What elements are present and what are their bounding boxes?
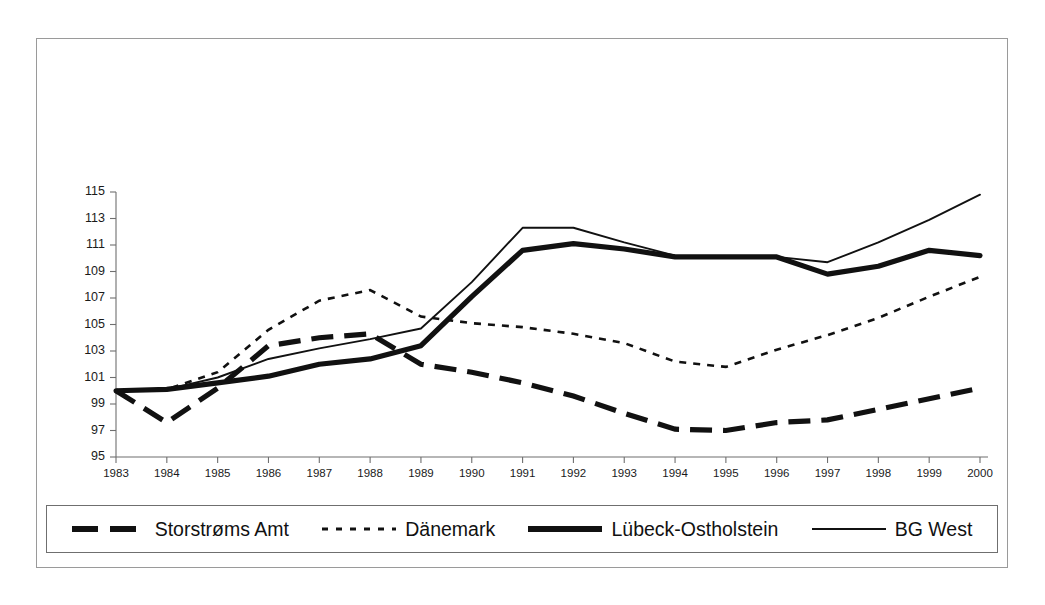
y-tick-label: 113 [85, 211, 105, 225]
legend-swatch-dotted-icon [322, 522, 396, 536]
x-axis: 1983198419851986198719881989199019911992… [103, 457, 993, 479]
x-tick-label: 1995 [713, 467, 739, 479]
x-tick-label: 1998 [866, 467, 892, 479]
x-tick-label: 1986 [256, 467, 282, 479]
x-tick-label: 1983 [103, 467, 129, 479]
x-tick-label: 1987 [306, 467, 332, 479]
x-tick-label: 1991 [510, 467, 536, 479]
legend-swatch-thick-dashed-icon [72, 522, 146, 536]
plot-area: 959799101103105107109111113115 198319841… [36, 38, 1008, 568]
y-tick-label: 109 [84, 264, 105, 278]
x-tick-label: 1985 [205, 467, 231, 479]
y-tick-label: 105 [84, 317, 105, 331]
x-tick-label: 1997 [815, 467, 841, 479]
chart-legend: Storstrøms Amt Dänemark Lübeck-Ostholste… [46, 505, 998, 553]
x-tick-label: 1984 [154, 467, 180, 479]
series-lines [116, 195, 980, 431]
y-tick-label: 115 [85, 184, 105, 198]
legend-label-lubeck-ostholstein: Lübeck-Ostholstein [611, 518, 778, 541]
x-tick-label: 1996 [764, 467, 790, 479]
legend-item-lubeck-ostholstein: Lübeck-Ostholstein [528, 518, 778, 541]
x-tick-label: 1989 [408, 467, 434, 479]
y-tick-label: 111 [86, 237, 105, 251]
legend-item-bg-west: BG West [812, 518, 973, 541]
x-tick-label: 1993 [611, 467, 637, 479]
x-tick-label: 1999 [916, 467, 942, 479]
legend-label-bg-west: BG West [895, 518, 973, 541]
x-tick-label: 1992 [561, 467, 587, 479]
x-tick-label: 1988 [357, 467, 383, 479]
y-tick-label: 101 [84, 370, 105, 384]
x-tick-label: 1990 [459, 467, 485, 479]
legend-item-storstroms-amt: Storstrøms Amt [72, 518, 289, 541]
y-tick-label: 107 [84, 290, 105, 304]
y-tick-label: 99 [91, 396, 105, 410]
legend-label-storstroms-amt: Storstrøms Amt [155, 518, 289, 541]
y-tick-label: 95 [91, 449, 105, 463]
x-tick-label: 2000 [967, 467, 993, 479]
legend-item-danemark: Dänemark [322, 518, 495, 541]
series-line-bg-west [116, 195, 980, 391]
y-axis: 959799101103105107109111113115 [84, 184, 116, 463]
series-line-lubeck-ostholstein [116, 244, 980, 391]
legend-swatch-thin-solid-icon [812, 522, 886, 536]
chart-figure: 959799101103105107109111113115 198319841… [0, 0, 1045, 605]
legend-swatch-thick-solid-icon [528, 522, 602, 536]
x-tick-label: 1994 [662, 467, 688, 479]
y-tick-label: 97 [91, 423, 105, 437]
legend-label-danemark: Dänemark [405, 518, 495, 541]
y-tick-label: 103 [84, 343, 105, 357]
line-chart-svg: 959799101103105107109111113115 198319841… [36, 38, 1008, 568]
series-line-danemark [116, 277, 980, 391]
